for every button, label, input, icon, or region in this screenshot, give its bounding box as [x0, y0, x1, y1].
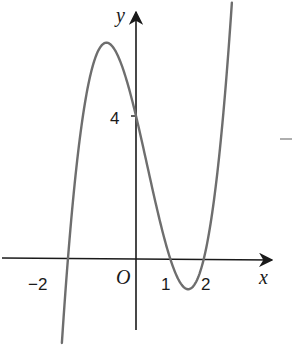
y-tick-label-4: 4	[110, 109, 119, 128]
y-axis-label: y	[114, 4, 125, 27]
x-axis-label: x	[258, 266, 268, 288]
cubic-function-graph: y x O −2 1 2 4	[0, 0, 292, 345]
x-tick-label-neg2: −2	[28, 275, 47, 294]
x-tick-label-2: 2	[201, 275, 210, 294]
x-tick-label-1: 1	[161, 275, 170, 294]
origin-label: O	[116, 266, 130, 288]
x-axis	[2, 258, 272, 260]
